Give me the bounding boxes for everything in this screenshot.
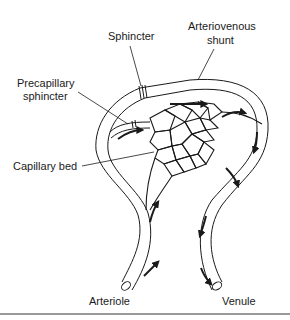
label-precapillary-sphincter-line1: Precapillary	[17, 77, 74, 90]
arrow-arteriole-inflow-lower	[144, 262, 158, 276]
label-venule: Venule	[222, 295, 256, 308]
leader-shunt	[198, 49, 214, 80]
metarteriole	[110, 122, 150, 138]
venule-opening	[211, 280, 223, 291]
leader-capillary-bed	[82, 152, 154, 166]
label-arteriovenous-shunt-line1: Arteriovenous	[188, 20, 256, 33]
arrow-arteriole-inflow-upper	[150, 202, 158, 222]
precapillary-sphincter-bands	[132, 120, 136, 128]
arteriole-vessel	[96, 79, 268, 290]
arrow-venule-right-down	[254, 132, 257, 152]
leader-lines	[78, 46, 214, 166]
label-precapillary-sphincter-line2: sphincter	[23, 90, 68, 103]
label-capillary-bed: Capillary bed	[13, 160, 77, 173]
arteriole-opening	[120, 280, 132, 292]
bottom-rule	[0, 313, 290, 315]
leader-sphincter	[130, 46, 141, 86]
label-arteriovenous-shunt-line2: shunt	[207, 34, 234, 47]
flow-arrows	[118, 104, 257, 284]
capillary-bed-network	[146, 102, 262, 210]
label-sphincter: Sphincter	[108, 30, 154, 43]
label-arteriole: Arteriole	[89, 295, 130, 308]
